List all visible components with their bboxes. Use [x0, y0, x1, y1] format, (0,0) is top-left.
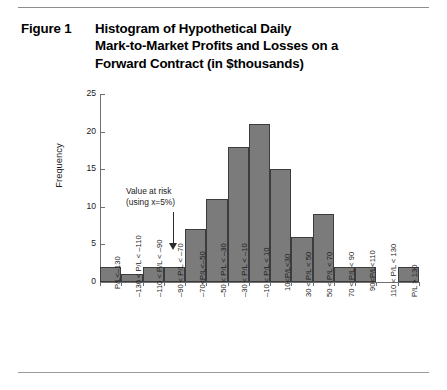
y-axis-tick-label: 20: [74, 127, 96, 137]
chart-plot-area: Frequency 0510152025 P/L<–130–130 < P/L …: [0, 0, 447, 390]
y-axis-tick: [100, 207, 105, 208]
x-axis-tick-label: 30 < P/L < 50: [305, 252, 313, 297]
y-axis-line: [100, 94, 101, 283]
y-axis-tick-label: 25: [74, 89, 96, 99]
annotation-line-1: Value at risk: [126, 186, 171, 196]
y-axis-tick-label-text: 5: [74, 239, 96, 248]
y-axis-tick-label-text: 20: [74, 127, 96, 136]
x-axis-tick-label: –70<P/L<–50: [199, 251, 207, 297]
x-axis-tick: [100, 282, 101, 286]
y-axis-tick-label: 5: [74, 239, 96, 249]
y-axis-tick-label-text: 10: [74, 202, 96, 211]
x-axis-tick-label: –90 < P/L < –70: [177, 243, 185, 297]
annotation-line-2: (using x=5%): [126, 197, 224, 208]
y-axis-tick: [100, 244, 105, 245]
figure-container: Figure 1Histogram of Hypothetical Daily …: [0, 0, 447, 390]
x-axis-tick-label: –10 < P/L < 10: [263, 247, 271, 297]
x-axis-tick-label: –30 < P/L < –10: [241, 243, 249, 297]
down-arrow-icon-head: [169, 243, 177, 250]
y-axis-tick-label-text: 25: [74, 89, 96, 98]
y-axis-tick: [100, 169, 105, 170]
down-arrow-icon-shaft: [173, 212, 174, 244]
x-axis-tick: [334, 282, 335, 286]
x-axis-tick-label: 50 < P/L < 70: [326, 252, 334, 297]
y-axis-tick: [100, 94, 105, 95]
x-axis-tick-label: 70 < P/L < 90: [348, 252, 356, 297]
y-axis-tick-label: 15: [74, 164, 96, 174]
y-axis-tick-label-text: 0: [74, 277, 96, 286]
x-axis-tick-label: P/L > 130: [411, 265, 419, 297]
x-axis-tick-label: 10<P/L<30: [284, 254, 292, 291]
y-axis-tick: [100, 132, 105, 133]
x-axis-tick-label: –110 < P/L < –90: [156, 240, 164, 297]
x-axis-tick: [249, 282, 250, 286]
x-axis-tick-label: –130 < P/L < –110: [135, 235, 143, 297]
y-axis-tick-label: 0: [74, 277, 96, 287]
x-axis-tick-label: 110 < P/L < 130: [390, 244, 398, 297]
y-axis-title: Frequency: [53, 106, 64, 226]
value-at-risk-annotation: Value at risk (using x=5%): [126, 186, 224, 209]
y-axis-tick-label-text: 15: [74, 164, 96, 173]
x-axis-tick: [185, 282, 186, 286]
x-axis-tick-label: –50 < P/L < –30: [220, 243, 228, 297]
y-axis-tick-label: 10: [74, 202, 96, 212]
x-axis-tick-label: P/L<–130: [114, 256, 122, 289]
x-axis-tick-label: 90<P/L<110: [369, 250, 377, 291]
x-axis-tick: [419, 282, 420, 286]
